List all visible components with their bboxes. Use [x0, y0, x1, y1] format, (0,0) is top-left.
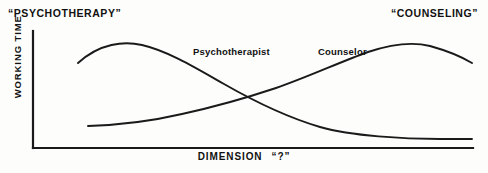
x-axis-label: DIMENSION“?”	[0, 152, 488, 162]
x-axis-label-qmark: “?”	[271, 151, 290, 162]
chart-figure: “PSYCHOTHERAPY” “COUNSELING” Psychothera…	[0, 0, 488, 173]
curve-label-counselor: Counselor	[318, 47, 367, 57]
x-axis-label-text: DIMENSION	[198, 151, 263, 162]
psychotherapist-curve	[78, 43, 472, 139]
chart-canvas	[0, 0, 488, 173]
y-axis-label: WORKING TIME	[13, 9, 23, 105]
pole-label-counseling: “COUNSELING”	[391, 8, 478, 19]
curve-label-psychotherapist: Psychotherapist	[193, 47, 270, 57]
pole-label-psychotherapy: “PSYCHOTHERAPY”	[8, 8, 121, 19]
counselor-curve	[88, 44, 472, 126]
curves-group	[78, 43, 472, 139]
